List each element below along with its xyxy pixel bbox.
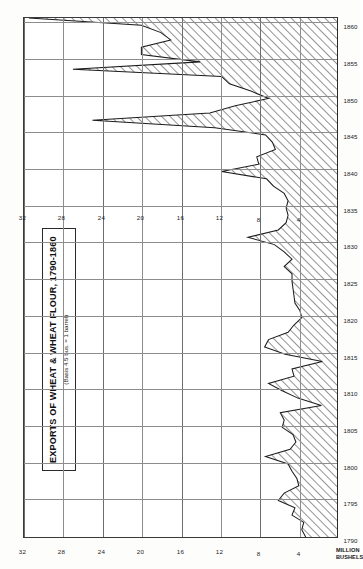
- year-tick-label: 1810: [344, 390, 358, 397]
- year-tick-label: 1815: [344, 353, 358, 360]
- year-tick-label: 1790: [344, 537, 358, 544]
- value-tick-label: 4: [296, 550, 300, 557]
- year-tick-label: 1855: [344, 60, 358, 67]
- year-gridline: [24, 389, 337, 390]
- year-tick-label: 1795: [344, 500, 358, 507]
- year-tick-label: 1805: [344, 427, 358, 434]
- value-tick-label: 4: [296, 216, 300, 223]
- chart-title-box: EXPORTS OF WHEAT & WHEAT FLOUR, 1790-186…: [42, 228, 76, 471]
- value-tick-label: 24: [98, 548, 105, 555]
- year-gridline: [24, 463, 337, 464]
- year-tick-label: 1850: [344, 96, 358, 103]
- year-tick-label: 1840: [344, 170, 358, 177]
- value-axis-label-top: MILLION BUSHELS: [336, 547, 363, 560]
- value-tick-label: 16: [176, 214, 183, 221]
- value-tick-label: 32: [19, 548, 26, 555]
- year-gridline: [24, 96, 337, 97]
- year-gridline: [24, 22, 337, 23]
- chart-plot-area: EXPORTS OF WHEAT & WHEAT FLOUR, 1790-186…: [23, 17, 338, 538]
- year-tick-label: 1800: [344, 463, 358, 470]
- value-tick-label: 8: [257, 216, 261, 223]
- value-tick-label: 12: [216, 214, 223, 221]
- value-tick-label: 12: [216, 548, 223, 555]
- chart-title: EXPORTS OF WHEAT & WHEAT FLOUR, 1790-186…: [48, 236, 58, 463]
- value-tick-label: 16: [176, 548, 183, 555]
- year-gridline: [24, 59, 337, 60]
- year-tick-label: 1835: [344, 206, 358, 213]
- year-tick-label: 1825: [344, 280, 358, 287]
- year-gridline: [24, 169, 337, 170]
- year-gridline: [24, 316, 337, 317]
- year-gridline: [24, 426, 337, 427]
- year-tick-label: 1830: [344, 243, 358, 250]
- value-tick-label: 24: [98, 214, 105, 221]
- year-tick-label: 1820: [344, 316, 358, 323]
- value-tick-label: 32: [19, 214, 26, 221]
- year-gridline: [24, 206, 337, 207]
- year-gridline: [24, 353, 337, 354]
- year-gridline: [24, 242, 337, 243]
- year-gridline: [24, 279, 337, 280]
- year-gridline: [24, 132, 337, 133]
- value-tick-label: 28: [58, 214, 65, 221]
- year-tick-label: 1860: [344, 23, 358, 30]
- year-gridline: [24, 499, 337, 500]
- year-tick-label: 1845: [344, 133, 358, 140]
- value-tick-label: 20: [137, 548, 144, 555]
- value-tick-label: 8: [257, 550, 261, 557]
- value-tick-label: 28: [58, 548, 65, 555]
- value-tick-label: 20: [137, 214, 144, 221]
